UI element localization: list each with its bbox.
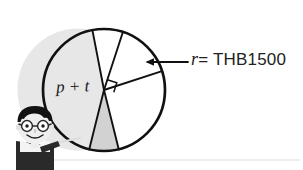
presenter-group <box>16 106 80 170</box>
radius-value: = THB1500 <box>198 50 286 69</box>
eye-left <box>25 124 28 127</box>
radius-callout-label: r= THB1500 <box>191 50 286 68</box>
glasses-temple-right <box>48 124 51 125</box>
presenter-figure <box>0 0 303 170</box>
glasses-temple-left <box>19 124 22 125</box>
figure-canvas: r= THB1500 p + t <box>0 0 303 170</box>
eye-right <box>41 124 44 127</box>
sector-label-p-plus-t: p + t <box>56 77 90 95</box>
